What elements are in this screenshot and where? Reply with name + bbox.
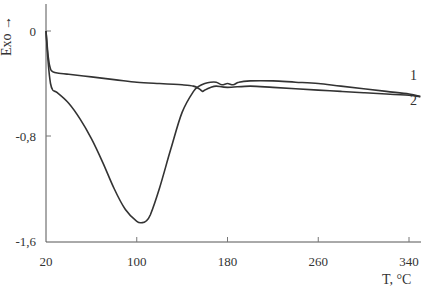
series-line-2: [46, 31, 420, 223]
series: [46, 31, 420, 223]
x-axis-title-unit: °C: [397, 272, 412, 287]
x-tick-label: 340: [399, 254, 419, 269]
dsc-chart: 0-0,8-1,6 20100180260340 Exo → T, °C 1 2: [0, 0, 428, 296]
x-tick-label: 100: [127, 254, 147, 269]
series-line-1: [46, 31, 420, 97]
x-axis-title: T, °C: [382, 272, 411, 287]
axes: [46, 4, 421, 242]
series-label-1: 1: [410, 68, 417, 83]
y-tick-label: -1,6: [15, 234, 36, 249]
y-tick-label: 0: [30, 24, 37, 39]
y-axis-title: Exo →: [0, 16, 14, 56]
series-label-2: 2: [410, 93, 417, 108]
y-tick-label: -0,8: [15, 129, 36, 144]
x-tick-label: 20: [40, 254, 53, 269]
x-tick-label: 260: [309, 254, 329, 269]
x-tick-label: 180: [218, 254, 238, 269]
x-axis-title-t: T,: [382, 272, 397, 287]
